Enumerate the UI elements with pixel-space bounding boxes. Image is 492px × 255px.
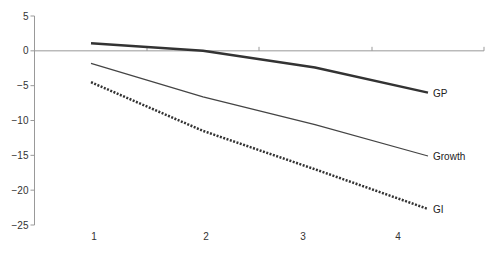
series-line-gi: [91, 82, 428, 209]
y-tick-label: 5: [23, 11, 29, 22]
y-tick-label: −15: [12, 150, 29, 161]
series-labels: GPGrowthGI: [433, 88, 465, 215]
series-line-growth: [91, 63, 428, 156]
series-label-growth: Growth: [433, 151, 465, 162]
y-tick-label: −10: [12, 115, 29, 126]
x-axis: 1234: [35, 47, 485, 242]
x-tick-label: 2: [203, 231, 209, 242]
y-axis: 50−5−10−15−20−25: [12, 11, 35, 231]
y-tick-label: 0: [23, 45, 29, 56]
line-chart: 50−5−10−15−20−25 1234 GPGrowthGI: [0, 0, 492, 255]
y-tick-label: −20: [12, 185, 29, 196]
x-tick-label: 3: [300, 231, 306, 242]
x-tick-label: 1: [91, 231, 97, 242]
y-tick-label: −5: [17, 80, 29, 91]
x-tick-label: 4: [395, 231, 401, 242]
series-label-gp: GP: [433, 88, 448, 99]
series-label-gi: GI: [433, 204, 444, 215]
y-tick-label: −25: [12, 220, 29, 231]
series-group: [91, 43, 428, 209]
